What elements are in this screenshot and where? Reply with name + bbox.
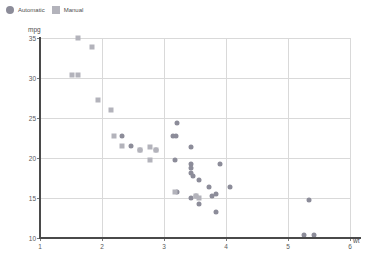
data-point-automatic xyxy=(214,209,219,214)
grid-line-horizontal xyxy=(40,158,350,159)
data-point-manual xyxy=(112,133,117,138)
y-tick-label: 25 xyxy=(29,115,36,122)
x-axis-title: wt xyxy=(353,237,360,244)
grid-line-vertical xyxy=(350,38,351,238)
data-point-automatic xyxy=(189,144,194,149)
data-point-manual xyxy=(108,108,113,113)
grid-line-vertical xyxy=(226,38,227,238)
grid-line-horizontal xyxy=(40,118,350,119)
data-point-manual xyxy=(154,148,159,153)
data-point-automatic xyxy=(128,144,133,149)
legend-item-automatic[interactable]: Automatic xyxy=(6,6,45,14)
data-point-manual xyxy=(172,189,177,194)
data-point-manual xyxy=(76,72,81,77)
y-tick-label: 10 xyxy=(29,235,36,242)
scatter-plot: 101520253035123456 mpg wt xyxy=(40,38,350,238)
data-point-automatic xyxy=(207,184,212,189)
legend-label-manual: Manual xyxy=(64,6,84,14)
grid-line-horizontal xyxy=(40,38,350,39)
legend-marker-square-icon xyxy=(52,6,60,14)
plot-background xyxy=(40,38,350,238)
data-point-automatic xyxy=(228,184,233,189)
data-point-manual xyxy=(95,97,100,102)
grid-line-horizontal xyxy=(40,78,350,79)
x-tick-label: 2 xyxy=(100,243,104,250)
y-tick-label: 15 xyxy=(29,195,36,202)
data-point-automatic xyxy=(214,192,219,197)
grid-line-vertical xyxy=(288,38,289,238)
legend-label-automatic: Automatic xyxy=(18,6,45,14)
x-tick-label: 1 xyxy=(38,243,42,250)
legend-marker-circle-icon xyxy=(6,6,14,14)
legend-item-manual[interactable]: Manual xyxy=(52,6,84,14)
data-point-manual xyxy=(147,144,152,149)
data-point-automatic xyxy=(197,201,202,206)
data-point-manual xyxy=(76,36,81,41)
y-tick-label: 35 xyxy=(29,35,36,42)
grid-line-vertical xyxy=(102,38,103,238)
data-point-automatic xyxy=(119,133,124,138)
data-point-manual xyxy=(89,44,94,49)
grid-line-vertical xyxy=(164,38,165,238)
data-point-manual xyxy=(138,148,143,153)
y-tick-label: 30 xyxy=(29,75,36,82)
x-tick-label: 6 xyxy=(348,243,352,250)
data-point-manual xyxy=(148,158,153,163)
chart-legend: Automatic Manual xyxy=(6,3,83,17)
data-point-automatic xyxy=(175,120,180,125)
data-point-manual xyxy=(194,194,199,199)
data-point-automatic xyxy=(171,133,176,138)
x-tick-label: 5 xyxy=(286,243,290,250)
y-tick-label: 20 xyxy=(29,155,36,162)
x-tick-label: 3 xyxy=(162,243,166,250)
data-point-manual xyxy=(119,144,124,149)
x-axis-spine xyxy=(39,237,361,239)
data-point-automatic xyxy=(190,173,195,178)
y-axis-title: mpg xyxy=(28,26,41,33)
data-point-manual xyxy=(69,72,74,77)
data-point-automatic xyxy=(307,198,312,203)
x-tick-label: 4 xyxy=(224,243,228,250)
data-point-automatic xyxy=(217,162,222,167)
y-axis-spine xyxy=(39,37,41,239)
data-point-automatic xyxy=(197,177,202,182)
data-point-automatic xyxy=(172,158,177,163)
